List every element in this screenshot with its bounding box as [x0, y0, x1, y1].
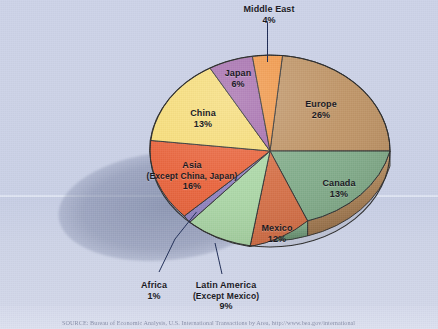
label-japan-pct: 6%	[231, 79, 244, 89]
label-canada-pct: 13%	[330, 189, 348, 199]
label-latin-america: Latin America (Except Mexico) 9%	[176, 280, 276, 312]
label-latin-america-name: Latin America	[196, 280, 257, 290]
label-canada-name: Canada	[322, 178, 355, 188]
label-asia-name: Asia	[182, 160, 201, 170]
label-africa-name: Africa	[141, 280, 167, 290]
label-japan-name: Japan	[225, 68, 252, 78]
label-china: China 13%	[175, 108, 231, 129]
label-china-name: China	[190, 108, 216, 118]
label-japan: Japan 6%	[214, 68, 262, 89]
label-middle-east: Middle East 4%	[214, 4, 324, 25]
label-mexico: Mexico 12%	[247, 223, 307, 244]
label-asia-pct: 16%	[183, 181, 201, 191]
label-europe: Europe 26%	[286, 99, 356, 120]
label-latin-america-pct: 9%	[219, 301, 232, 311]
label-canada: Canada 13%	[306, 178, 372, 199]
label-europe-name: Europe	[305, 99, 337, 109]
label-asia-sub: (Except China, Japan)	[147, 171, 238, 181]
label-middle-east-name: Middle East	[243, 4, 294, 14]
label-latin-america-sub: (Except Mexico)	[193, 291, 259, 301]
leader-latin-america	[215, 243, 222, 274]
label-mexico-name: Mexico	[261, 223, 292, 233]
label-middle-east-pct: 4%	[262, 15, 275, 25]
label-europe-pct: 26%	[312, 110, 330, 120]
label-china-pct: 13%	[194, 119, 212, 129]
label-asia: Asia (Except China, Japan) 16%	[130, 160, 254, 192]
pie-top-sheen	[150, 55, 390, 247]
label-africa-pct: 1%	[147, 291, 160, 301]
label-africa: Africa 1%	[130, 280, 178, 301]
source-note: SOURCE: Bureau of Economic Analysis, U.S…	[62, 319, 436, 327]
pie-chart-figure: Middle East 4% Japan 6% China 13% Asia (…	[0, 0, 438, 329]
label-mexico-pct: 12%	[268, 234, 286, 244]
